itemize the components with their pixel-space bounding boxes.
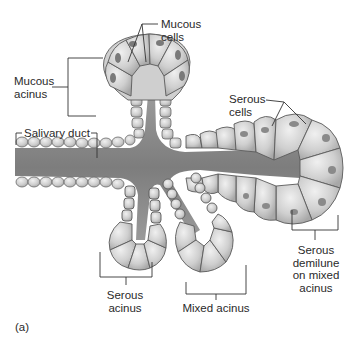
label-mixed-acinus: Mixed acinus [182,302,249,315]
salivary-gland-diagram: Mucous cells Mucous acinus Salivary duct… [0,0,360,337]
label-serous-demilune: Serous demilune on mixed acinus [293,244,340,294]
label-serous-acinus: Serous acinus [107,289,143,314]
panel-label: (a) [15,321,29,334]
label-serous-cells: Serous cells [229,93,265,118]
label-salivary-duct: Salivary duct [24,127,90,140]
duct-lower-cells [16,177,124,189]
label-mucous-acinus: Mucous acinus [14,75,54,100]
label-mucous-cells: Mucous cells [161,18,201,43]
mucous-acinus [104,34,191,100]
